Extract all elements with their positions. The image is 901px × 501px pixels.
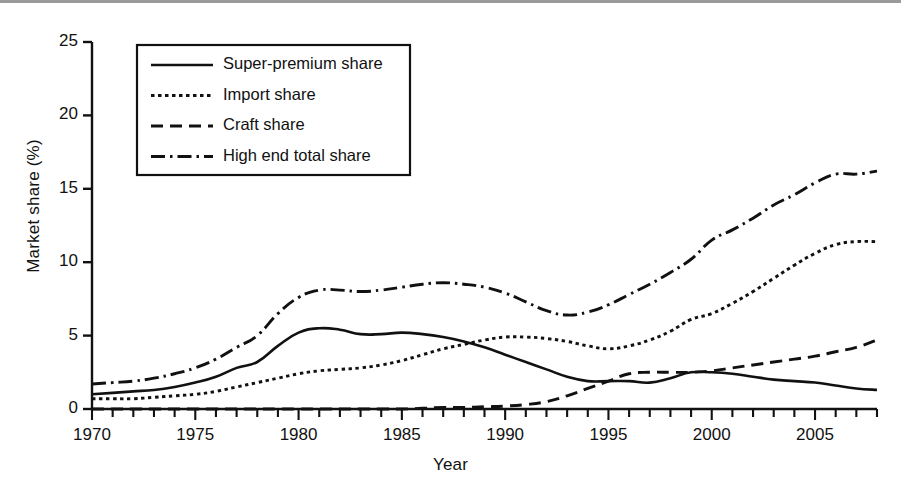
x-tick-label: 1995 <box>573 425 643 445</box>
y-tick-label: 20 <box>34 104 78 124</box>
x-tick-label: 1985 <box>367 425 437 445</box>
series-lines <box>92 171 877 409</box>
y-tick-label: 15 <box>34 178 78 198</box>
y-tick-label: 0 <box>34 398 78 418</box>
x-tick-label: 1980 <box>264 425 334 445</box>
figure-container: Market share (%) Year 051015202519701975… <box>0 0 901 501</box>
legend-item-label: Craft share <box>223 115 453 134</box>
x-tick-label: 1990 <box>470 425 540 445</box>
series-line <box>92 241 877 399</box>
x-tick-label: 2005 <box>780 425 850 445</box>
legend-item-label: Import share <box>223 85 453 104</box>
x-tick-label: 1975 <box>160 425 230 445</box>
legend-item-label: High end total share <box>223 146 453 165</box>
x-tick-label: 1970 <box>57 425 127 445</box>
series-line <box>92 171 877 384</box>
series-line <box>92 328 877 394</box>
x-tick-label: 2000 <box>677 425 747 445</box>
y-tick-label: 10 <box>34 251 78 271</box>
series-line <box>92 340 877 409</box>
legend-item-label: Super-premium share <box>223 54 453 73</box>
x-axis-title: Year <box>0 455 901 475</box>
y-tick-label: 25 <box>34 31 78 51</box>
line-chart-plot <box>0 0 901 501</box>
y-tick-label: 5 <box>34 325 78 345</box>
